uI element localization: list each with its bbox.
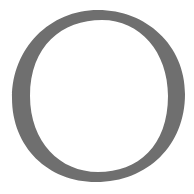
letter-o-glyph	[0, 0, 194, 194]
